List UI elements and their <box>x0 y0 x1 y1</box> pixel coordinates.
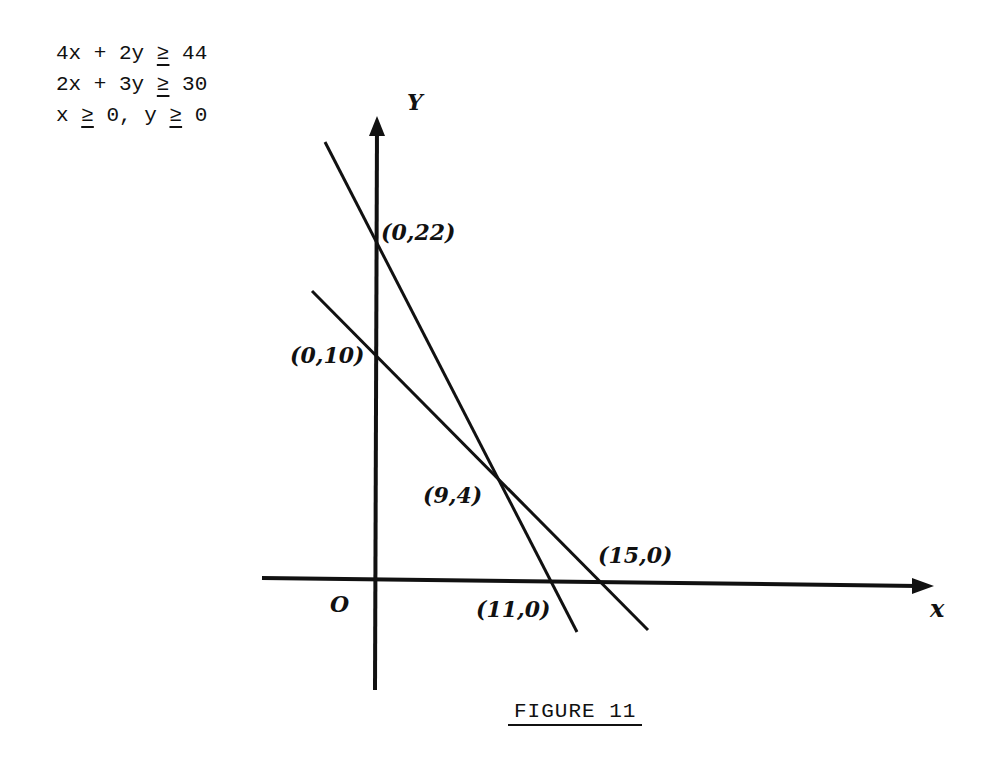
point-label-0-22: (0,22) <box>381 219 455 245</box>
graph: Y x O (0,22) (0,10) (9,4) (15,0) (11,0) <box>0 0 1000 773</box>
x-axis-arrow-icon <box>912 578 934 594</box>
x-axis-label: x <box>929 594 945 623</box>
y-axis-label: Y <box>407 89 425 115</box>
point-label-0-10: (0,10) <box>290 342 364 368</box>
y-axis-arrow-icon <box>369 116 385 136</box>
x-axis <box>262 578 918 586</box>
origin-label: O <box>330 591 349 617</box>
y-axis <box>375 128 377 690</box>
point-label-15-0: (15,0) <box>598 542 672 568</box>
point-label-9-4: (9,4) <box>423 482 482 508</box>
figure-caption: FIGURE 11 <box>508 700 642 726</box>
line-4x-2y-44 <box>325 142 577 632</box>
point-label-11-0: (11,0) <box>476 596 550 622</box>
